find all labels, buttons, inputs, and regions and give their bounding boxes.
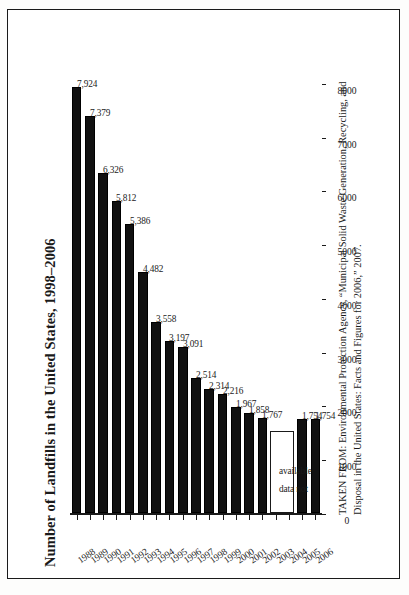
category-axis-tick: [235, 515, 236, 520]
value-axis-tick: [322, 460, 326, 461]
chart-stage: Number of Landfills in the United States…: [40, 17, 370, 573]
value-axis-tick: [322, 84, 326, 85]
bar: [191, 378, 201, 513]
category-axis-tick: [288, 515, 289, 520]
figure-frame: Number of Landfills in the United States…: [7, 9, 400, 579]
bar: [257, 418, 267, 513]
no-data-label-line2: available: [278, 466, 311, 476]
value-axis-tick: [322, 245, 326, 246]
bar-row: 5,386: [124, 83, 134, 513]
bar-row: 2,216: [217, 83, 227, 513]
bar-row: 2,514: [191, 83, 201, 513]
category-axis-tick: [142, 515, 143, 520]
bar-row: 3,091: [177, 83, 187, 513]
value-axis-tick: [322, 192, 326, 193]
figure-page: Number of Landfills in the United States…: [0, 0, 409, 595]
bar-row: 7,924: [71, 83, 81, 513]
value-axis-tick: [322, 138, 326, 139]
page-title: Number of Landfills in the United States…: [42, 238, 59, 567]
bar: [138, 272, 148, 513]
category-axis-tick: [76, 515, 77, 520]
bar-row: 1,754: [297, 83, 307, 513]
category-axis-tick: [302, 515, 303, 520]
category-axis-tick: [182, 515, 183, 520]
category-axis-tick: [156, 515, 157, 520]
bar-row: 1,858: [244, 83, 254, 513]
category-axis-tick: [129, 515, 130, 520]
category-axis-tick: [116, 515, 117, 520]
category-axis-tick: [315, 515, 316, 520]
bar-row: 6,326: [98, 83, 108, 513]
bar-chart-plot: 8000700060005000400030002000100007,92419…: [70, 85, 322, 515]
bar-row: 7,379: [85, 83, 95, 513]
category-axis-tick: [222, 515, 223, 520]
bar-row: 5,812: [111, 83, 121, 513]
value-axis-tick: [322, 353, 326, 354]
bar-row: 4,482: [138, 83, 148, 513]
bar: [98, 173, 108, 513]
bar-row: 1,754: [310, 83, 320, 513]
category-axis-tick: [196, 515, 197, 520]
no-data-label-line1: data not: [278, 484, 307, 494]
bar-row: 3,197: [164, 83, 174, 513]
category-axis-tick: [209, 515, 210, 520]
bar: [204, 389, 214, 513]
bar: [124, 224, 134, 513]
bar: [111, 201, 121, 513]
bar: [231, 407, 241, 513]
category-axis-tick: [262, 515, 263, 520]
bar-row: 2,314: [204, 83, 214, 513]
bar: [151, 322, 161, 513]
value-axis-tick-label: 0: [344, 515, 349, 526]
bar: [164, 341, 174, 513]
bar-row: 1,767: [257, 83, 267, 513]
bar-row: 1,967: [231, 83, 241, 513]
bar-value-label: 1,754: [315, 411, 335, 421]
category-axis-tick: [89, 515, 90, 520]
value-axis-tick: [322, 514, 326, 515]
category-axis-tick: [249, 515, 250, 520]
bar: [71, 87, 81, 513]
value-axis-tick: [322, 407, 326, 408]
category-axis-tick: [275, 515, 276, 520]
bar: [217, 394, 227, 513]
bar-row: 3,558: [151, 83, 161, 513]
bar: [244, 413, 254, 513]
bar: [85, 116, 95, 513]
value-axis-tick: [322, 299, 326, 300]
source-caption: TAKEN FROM: Environmental Protection Age…: [336, 45, 366, 515]
category-axis-tick: [169, 515, 170, 520]
rotated-figure-wrapper: Number of Landfills in the United States…: [8, 10, 401, 580]
bar: [177, 347, 187, 513]
category-axis-tick: [103, 515, 104, 520]
